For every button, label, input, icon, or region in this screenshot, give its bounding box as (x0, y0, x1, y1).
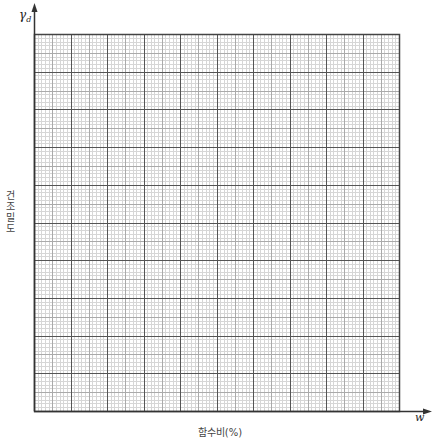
y-axis-arrow-icon (32, 3, 38, 12)
x-axis-label: 함수비(%) (170, 424, 270, 439)
x-axis (34, 409, 432, 415)
x-axis-symbol: w (415, 411, 424, 424)
y-axis-symbol: γd (19, 8, 31, 24)
y-symbol-subscript: d (26, 15, 31, 24)
y-axis-label: 건조밀도 (2, 190, 16, 234)
mid-grid (34, 34, 399, 411)
